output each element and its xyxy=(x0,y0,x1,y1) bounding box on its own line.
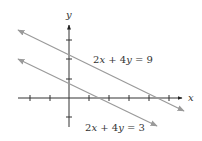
line-label-eq3: 2x + 4y = 3 xyxy=(85,122,145,133)
coordinate-plane: y x 2x + 4y = 9 2x + 4y = 3 xyxy=(0,0,202,141)
y-axis-label: y xyxy=(65,9,72,20)
x-axis-label: x xyxy=(188,92,194,103)
line-2x-4y-3 xyxy=(18,59,157,126)
line-label-eq9: 2x + 4y = 9 xyxy=(93,54,153,65)
